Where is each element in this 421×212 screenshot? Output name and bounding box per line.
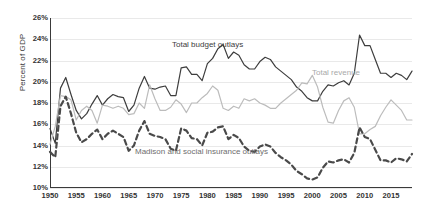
y-tick-label: 26%: [22, 14, 48, 22]
y-axis-tick-labels: 10%12%14%16%18%20%22%24%26%: [20, 0, 48, 212]
y-tick-label: 18%: [22, 99, 48, 107]
x-tick-label: 1970: [146, 191, 163, 200]
x-tick-label: 2010: [356, 191, 373, 200]
x-tick-label: 1965: [120, 191, 137, 200]
x-tick-label: 1980: [199, 191, 216, 200]
x-axis-tick-labels: 1950195519601965197019751980198519901995…: [0, 189, 421, 205]
y-tick-label: 22%: [22, 57, 48, 65]
y-tick-label: 14%: [22, 142, 48, 150]
series-label-total-budget-outlays: Total budget outlays: [172, 40, 243, 49]
x-tick-label: 1985: [225, 191, 242, 200]
y-tick-label: 12%: [22, 163, 48, 171]
x-tick-label: 1975: [173, 191, 190, 200]
series-label-madison-social-insurance: Madison and social insurance outlays: [135, 147, 268, 156]
y-tick-label: 24%: [22, 35, 48, 43]
x-tick-label: 1950: [42, 191, 59, 200]
x-tick-label: 2000: [304, 191, 321, 200]
y-tick-label: 16%: [22, 120, 48, 128]
x-tick-label: 1955: [68, 191, 85, 200]
x-tick-label: 1960: [94, 191, 111, 200]
x-tick-label: 1995: [278, 191, 295, 200]
y-tick-label: 20%: [22, 78, 48, 86]
x-tick-label: 2005: [330, 191, 347, 200]
series-label-total-revenue: Total revenue: [312, 68, 360, 77]
x-tick-label: 1990: [251, 191, 268, 200]
chart-container: Percent of GDP 10%12%14%16%18%20%22%24%2…: [0, 0, 421, 212]
x-tick-label: 2015: [383, 191, 400, 200]
